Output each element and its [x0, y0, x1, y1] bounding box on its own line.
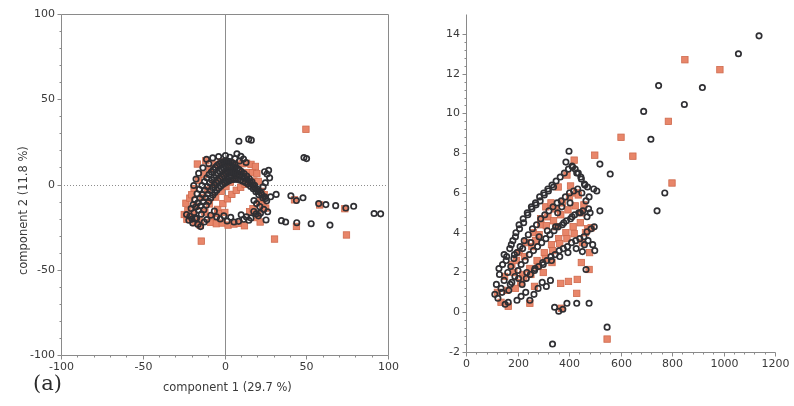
scatter-plot-pca: [0, 0, 400, 406]
panel-b: Weight logP(o/w) (b): [400, 0, 794, 406]
y-axis-title-a: component 2 (11.8 %): [16, 146, 30, 275]
panel-label-a: (a): [33, 371, 62, 395]
x-axis-title-a: component 1 (29.7 %): [163, 380, 292, 394]
panel-a: component 1 (29.7 %) component 2 (11.8 %…: [0, 0, 400, 406]
scatter-plot-logp-weight: [400, 0, 794, 406]
figure-root: component 1 (29.7 %) component 2 (11.8 %…: [0, 0, 794, 406]
